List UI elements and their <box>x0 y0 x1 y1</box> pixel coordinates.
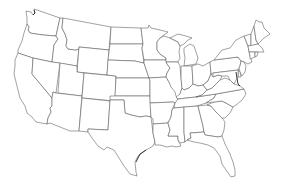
state-WA[interactable] <box>26 9 60 36</box>
state-MT[interactable] <box>62 18 111 50</box>
state-KS[interactable] <box>115 78 150 96</box>
state-CT[interactable] <box>249 52 255 59</box>
state-ME[interactable] <box>254 20 270 44</box>
us-outline-map <box>0 0 288 185</box>
state-NE[interactable] <box>107 60 149 78</box>
state-NM[interactable] <box>79 98 110 132</box>
us-states-svg <box>0 0 288 185</box>
state-WY[interactable] <box>77 47 109 75</box>
state-ND[interactable] <box>110 27 143 44</box>
state-AZ[interactable] <box>47 92 82 131</box>
state-FL[interactable] <box>187 132 235 177</box>
state-RI[interactable] <box>255 52 258 57</box>
